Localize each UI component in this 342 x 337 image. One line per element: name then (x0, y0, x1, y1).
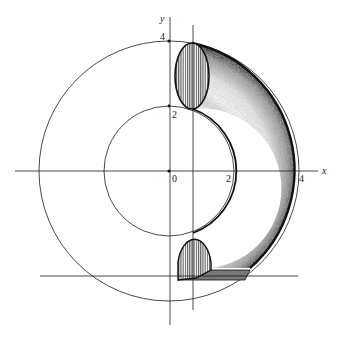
y2-dot (168, 105, 171, 108)
torus-diagram: y x 0 2 4 2 4 (0, 0, 342, 337)
x-axis-label: x (321, 165, 327, 176)
origin-label: 0 (172, 173, 177, 184)
y-axis-label: y (159, 13, 165, 24)
y-tick-4: 4 (160, 31, 165, 42)
origin-dot (167, 169, 170, 172)
top-cross-section (175, 43, 209, 109)
y-tick-2: 2 (172, 109, 177, 120)
y4-dot (167, 39, 170, 42)
x-tick-2: 2 (226, 173, 231, 184)
x-tick-4: 4 (299, 173, 304, 184)
